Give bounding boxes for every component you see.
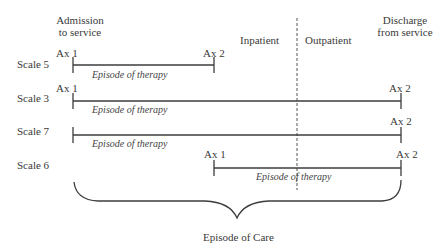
ax2-label-scale-6: Ax 2 — [396, 148, 418, 160]
episode-of-care-brace — [74, 180, 401, 218]
outpatient-label: Outpatient — [305, 34, 351, 46]
episode-label-scale-6: Episode of therapy — [256, 171, 332, 183]
ax2-label-scale-3: Ax 2 — [389, 82, 411, 94]
discharge-label: Discharge from service — [370, 14, 440, 38]
episode-label-scale-5: Episode of therapy — [92, 69, 168, 81]
scale-label-3: Scale 3 — [17, 92, 49, 104]
ax1-label-scale-5: Ax 1 — [56, 47, 78, 59]
discharge-line-1: Discharge — [370, 14, 440, 26]
inpatient-label: Inpatient — [240, 34, 279, 46]
scale-label-6: Scale 6 — [17, 159, 49, 171]
episode-of-care-label: Episode of Care — [203, 231, 274, 243]
admission-line-2: to service — [52, 26, 108, 38]
discharge-line-2: from service — [370, 26, 440, 38]
ax1-label-scale-6: Ax 1 — [204, 148, 226, 160]
ax2-label-scale-5: Ax 2 — [203, 47, 225, 59]
admission-line-1: Admission — [52, 14, 108, 26]
scale-label-5: Scale 5 — [17, 58, 49, 70]
ax1-label-scale-3: Ax 1 — [56, 82, 78, 94]
episode-label-scale-3: Episode of therapy — [92, 104, 168, 116]
episode-label-scale-7: Episode of therapy — [92, 138, 168, 150]
scale-label-7: Scale 7 — [17, 125, 49, 137]
admission-label: Admission to service — [52, 14, 108, 38]
ax2-label-scale-7: Ax 2 — [390, 115, 412, 127]
